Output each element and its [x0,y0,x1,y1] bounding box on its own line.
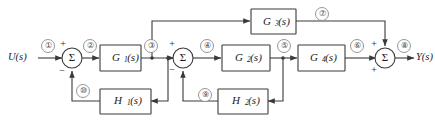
block-h1[interactable]: H 1 (s) [100,89,151,114]
block-g3-arg: (s) [278,15,290,28]
block-g4-label: G [310,51,318,63]
signal-tag-10: ⑩ [77,85,90,98]
signal-tag-9-text: ⑨ [202,90,209,99]
junction-node3 [150,56,154,60]
signal-tag-10-text: ⑩ [80,86,87,95]
signal-tag-6-text: ⑥ [354,41,361,50]
signal-tag-7-text: ⑦ [319,9,326,18]
signal-tag-5-text: ⑤ [281,41,288,50]
signal-tag-2-text: ② [87,41,94,50]
input-label: U(s) [8,51,27,63]
block-g3-label: G [263,15,271,27]
summing-junction-1[interactable]: Σ + − [59,38,82,76]
block-g2-arg: (s) [250,51,262,64]
block-g1-arg: (s) [127,51,139,64]
signal-tag-1-text: ① [45,41,52,50]
block-h1-arg: (s) [130,94,142,107]
block-g1[interactable]: G 1 (s) [100,45,141,71]
summer3-plus-bottom-sign: + [371,64,377,75]
summer2-sigma: Σ [180,51,186,63]
block-g2-label: G [235,51,243,63]
junction-node5 [281,56,285,60]
summer3-plus-top-sign: + [371,38,377,49]
summing-junction-3[interactable]: Σ + + [371,38,395,75]
block-g4[interactable]: G 4 (s) [298,45,345,71]
signal-tag-9: ⑨ [199,89,212,102]
summer1-sigma: Σ [69,51,75,63]
block-g1-label: G [112,51,120,63]
block-diagram: G 1 (s) G 2 (s) G 3 (s) G 4 (s) H 1 (s) [0,0,435,127]
block-g3[interactable]: G 3 (s) [251,9,296,34]
summer2-plus-sign: + [169,38,175,49]
summer2-minus-sign: − [169,64,175,75]
summing-junction-2[interactable]: Σ + − [169,38,193,75]
signal-tag-8-text: ⑧ [401,41,408,50]
signal-tag-3: ③ [145,40,158,53]
signal-tag-7: ⑦ [316,8,329,21]
wire-node-to-h1 [151,58,168,101]
signal-tag-4: ④ [201,40,214,53]
signal-tag-6: ⑥ [351,40,364,53]
signal-tag-1: ① [42,40,55,53]
block-h2-arg: (s) [248,94,260,107]
block-h2[interactable]: H 2 (s) [218,89,268,114]
block-g2[interactable]: G 2 (s) [222,45,270,71]
signal-tag-2: ② [84,40,97,53]
signal-tag-8: ⑧ [398,40,411,53]
summer1-plus-sign: + [60,38,66,49]
junction-h1-takeoff [166,56,170,60]
summer3-sigma: Σ [382,51,388,63]
signal-tag-3-text: ③ [148,41,155,50]
block-h1-label: H [113,94,123,106]
block-g4-arg: (s) [325,51,337,64]
signal-tag-5: ⑤ [278,40,291,53]
signal-tag-4-text: ④ [204,41,211,50]
block-h2-label: H [231,94,241,106]
diagram-canvas: G 1 (s) G 2 (s) G 3 (s) G 4 (s) H 1 (s) [0,0,435,127]
summer1-minus-sign: − [59,65,65,76]
output-label: Y(s) [416,51,433,63]
